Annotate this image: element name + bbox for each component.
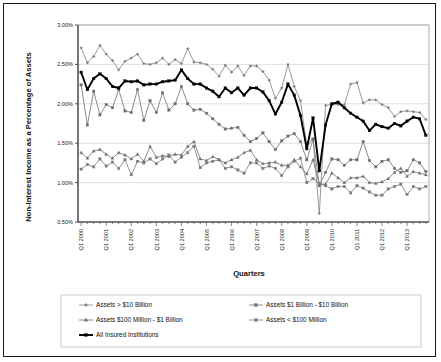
data-point-marker [255, 137, 257, 139]
data-point-marker [111, 85, 114, 88]
data-point-marker [280, 101, 283, 104]
data-point-marker [287, 83, 290, 86]
figure-frame: Non-Interest Income as a Percentage of A… [3, 3, 436, 357]
data-point-marker [149, 99, 151, 101]
data-point-marker [149, 158, 151, 160]
data-point-marker [180, 156, 182, 158]
data-point-marker [255, 319, 258, 322]
legend-label: All Insured Institutions [96, 331, 159, 338]
data-point-marker [193, 145, 195, 147]
data-point-marker [262, 91, 265, 94]
chart-canvas: Non-Interest Income as a Percentage of A… [4, 4, 437, 358]
data-point-marker [293, 133, 295, 135]
data-point-marker [343, 185, 345, 187]
data-point-marker [400, 171, 402, 173]
data-point-marker [262, 167, 264, 169]
y-tick-label: 2.50% [57, 61, 73, 67]
data-point-marker [168, 154, 170, 156]
data-point-marker [243, 172, 245, 174]
data-point-marker [186, 77, 189, 80]
data-point-marker [136, 80, 139, 83]
data-point-marker [425, 170, 427, 172]
data-point-marker [218, 159, 220, 161]
data-point-marker [387, 127, 390, 130]
data-point-marker [180, 85, 182, 87]
data-point-marker [255, 304, 258, 307]
data-point-marker [98, 148, 101, 151]
data-point-marker [274, 148, 276, 150]
data-point-marker [105, 103, 107, 105]
data-point-marker [356, 116, 359, 119]
data-point-marker [212, 160, 214, 162]
data-point-marker [374, 123, 377, 126]
data-point-marker [400, 125, 403, 128]
data-point-marker [362, 140, 364, 142]
data-point-marker [368, 129, 371, 132]
data-point-marker [211, 90, 214, 93]
data-point-marker [299, 140, 301, 142]
data-point-marker [274, 113, 277, 116]
chart-legend: Assets > $10 BillionAssets $1 Billion - … [61, 295, 421, 347]
series-4 [80, 145, 427, 196]
data-point-marker [111, 107, 113, 109]
y-tick-label: 2.00% [57, 101, 73, 107]
data-point-marker [368, 191, 370, 193]
data-point-marker [324, 185, 326, 187]
data-point-marker [186, 47, 189, 50]
legend-label: Assets < $100 Million [266, 316, 327, 323]
data-point-marker [412, 170, 415, 173]
series-5 [80, 69, 427, 172]
data-point-marker [312, 177, 314, 179]
data-point-marker [381, 125, 384, 128]
data-point-marker [161, 92, 163, 94]
data-point-marker [117, 87, 120, 90]
data-point-marker [224, 87, 227, 90]
data-point-marker [249, 87, 252, 90]
data-point-marker [280, 140, 282, 142]
data-point-marker [368, 98, 371, 101]
data-point-marker [180, 69, 183, 72]
data-point-marker [199, 61, 202, 64]
x-axis-ticks: Q1 2000Q1 2001Q1 2002Q1 2003Q1 2004Q1 20… [78, 222, 426, 250]
data-point-marker [80, 168, 82, 170]
data-point-marker [243, 134, 245, 136]
data-point-marker [186, 103, 188, 105]
data-point-marker [149, 63, 152, 66]
data-point-marker [381, 160, 383, 162]
data-point-marker [330, 171, 333, 174]
data-point-marker [255, 87, 258, 90]
data-point-marker [218, 123, 220, 125]
x-tick-label: Q1 2005 [204, 229, 210, 250]
legend-label: Assets > $10 Billion [96, 301, 152, 308]
data-point-marker [349, 159, 351, 161]
data-point-marker [274, 167, 276, 169]
data-point-marker [218, 95, 221, 98]
data-point-marker [230, 127, 232, 129]
x-tick-label: Q1 2008 [279, 229, 285, 250]
data-point-marker [149, 83, 152, 86]
data-point-marker [343, 164, 345, 166]
data-point-marker [230, 91, 233, 94]
series-line [81, 146, 426, 195]
y-axis-ticks: 0.50%1.00%1.50%2.00%2.50%3.00% [57, 22, 78, 225]
data-point-marker [312, 117, 315, 120]
data-point-marker [86, 88, 89, 91]
data-point-marker [337, 159, 339, 161]
data-point-marker [299, 114, 302, 117]
data-point-marker [324, 171, 326, 173]
data-point-marker [406, 109, 409, 112]
x-tick-label: Q1 2013 [404, 229, 410, 250]
data-point-marker [243, 94, 246, 97]
data-point-marker [418, 162, 420, 164]
data-point-marker [306, 181, 308, 183]
data-point-marker [161, 158, 163, 160]
data-point-marker [85, 334, 88, 337]
data-point-marker [425, 134, 428, 137]
data-point-marker [299, 99, 302, 102]
x-axis-title: Quarters [233, 269, 265, 278]
data-point-marker [237, 87, 240, 90]
x-tick-label: Q1 2002 [128, 229, 134, 250]
data-point-marker [99, 73, 102, 76]
data-point-marker [199, 166, 201, 168]
y-axis-title: Non-Interest Income as a Percentage of A… [24, 52, 33, 221]
